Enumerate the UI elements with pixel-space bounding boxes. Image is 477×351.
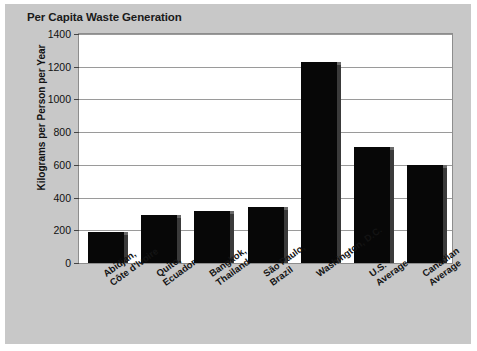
y-tick-label: 1200 bbox=[48, 61, 71, 73]
gridline bbox=[79, 67, 452, 68]
y-tick-label: 400 bbox=[53, 192, 71, 204]
bar-top-shadow bbox=[230, 211, 234, 214]
y-axis-title: Kilograms per Person per Year bbox=[36, 18, 47, 218]
chart-container: Per Capita Waste Generation Kilograms pe… bbox=[5, 4, 471, 344]
y-tick-mark bbox=[74, 67, 79, 68]
y-tick-mark bbox=[74, 34, 79, 35]
y-tick-label: 800 bbox=[53, 126, 71, 138]
bar-side-shadow bbox=[390, 150, 394, 263]
gridline bbox=[79, 165, 452, 166]
y-tick-label: 200 bbox=[53, 224, 71, 236]
gridline bbox=[79, 198, 452, 199]
bar bbox=[248, 207, 284, 263]
gridline bbox=[79, 132, 452, 133]
bar-top-shadow bbox=[284, 207, 288, 210]
bar-top-shadow bbox=[177, 215, 181, 218]
bar-top-shadow bbox=[390, 147, 394, 150]
y-tick-mark bbox=[74, 263, 79, 264]
bar-side-shadow bbox=[337, 65, 341, 263]
gridline bbox=[79, 99, 452, 100]
y-tick-label: 0 bbox=[65, 257, 71, 269]
bar bbox=[194, 211, 230, 263]
chart-title: Per Capita Waste Generation bbox=[27, 11, 182, 23]
bar bbox=[407, 165, 443, 263]
bar-top-shadow bbox=[337, 62, 341, 65]
y-tick-label: 1400 bbox=[48, 28, 71, 40]
y-tick-mark bbox=[74, 198, 79, 199]
y-tick-mark bbox=[74, 99, 79, 100]
gridline bbox=[79, 34, 452, 35]
bar-side-shadow bbox=[443, 168, 447, 263]
y-tick-label: 1000 bbox=[48, 93, 71, 105]
y-tick-mark bbox=[74, 132, 79, 133]
plot-area: 0200400600800100012001400 bbox=[78, 33, 453, 264]
bar bbox=[301, 62, 337, 263]
y-tick-mark bbox=[74, 230, 79, 231]
y-tick-mark bbox=[74, 165, 79, 166]
y-tick-label: 600 bbox=[53, 159, 71, 171]
bar-top-shadow bbox=[443, 165, 447, 168]
bar-top-shadow bbox=[124, 232, 128, 235]
